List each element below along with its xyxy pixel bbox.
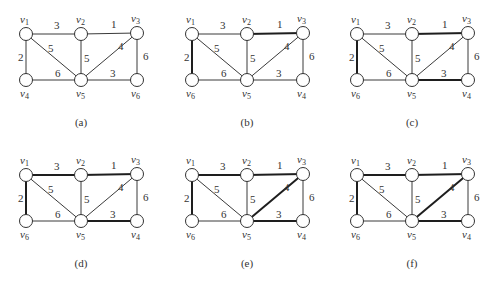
vertex-node-br <box>462 215 475 228</box>
edge-weight-label: 6 <box>143 50 149 62</box>
vertex-node-bl <box>186 74 199 87</box>
edge-weight-label: 3 <box>110 67 116 79</box>
edge-weight-label: 5 <box>84 52 90 64</box>
vertex-node-bm <box>241 74 254 87</box>
graph-svg: 312554663v1v2v3v4v5v6(a) <box>0 0 165 141</box>
vertex-label: v6 <box>186 87 195 101</box>
vertex-label: v6 <box>186 228 195 242</box>
edge-weight-label: 6 <box>221 67 227 79</box>
vertex-label: v2 <box>407 154 416 168</box>
vertex-node-tm <box>241 169 254 182</box>
vertex-label: v2 <box>242 154 251 168</box>
edge-weight-label: 3 <box>385 19 391 31</box>
vertex-label: v1 <box>20 13 29 27</box>
edge-weight-label: 5 <box>250 52 256 64</box>
edge-weight-label: 1 <box>277 159 283 171</box>
vertex-node-tr <box>297 168 310 181</box>
vertex-label: v6 <box>351 87 360 101</box>
edge-weight-label: 4 <box>118 40 124 52</box>
edge-weight-label: 5 <box>48 42 54 54</box>
vertex-label: v2 <box>242 13 251 27</box>
edge-weight-label: 2 <box>18 192 24 204</box>
vertex-node-tr <box>297 27 310 40</box>
graph-svg: 312554663v1v2v3v6v5v4(b) <box>166 0 331 141</box>
vertex-label: v1 <box>186 154 195 168</box>
vertex-label: v3 <box>131 153 140 167</box>
panel-caption: (e) <box>241 257 254 270</box>
edge-weight-label: 3 <box>110 208 116 220</box>
vertex-label: v3 <box>462 153 471 167</box>
panel-caption: (b) <box>241 116 254 129</box>
vertex-label: v1 <box>351 154 360 168</box>
graph-panel-b: 312554663v1v2v3v6v5v4(b) <box>166 0 331 141</box>
edge-weight-label: 5 <box>415 193 421 205</box>
graph-panel-a: 312554663v1v2v3v4v5v6(a) <box>0 0 165 141</box>
graph-svg: 312554663v1v2v3v6v5v4(f) <box>331 141 496 282</box>
edge-tl-bm <box>192 34 247 80</box>
edge-weight-label: 6 <box>143 191 149 203</box>
edge-tm-tr <box>81 33 137 34</box>
edge-tm-tr <box>81 174 137 175</box>
vertex-node-tl <box>20 169 33 182</box>
graph-svg: 312554663v1v2v3v6v5v4(c) <box>331 0 496 141</box>
vertex-node-br <box>131 74 144 87</box>
edge-weight-label: 4 <box>284 181 290 193</box>
vertex-node-tr <box>462 27 475 40</box>
vertex-node-tl <box>351 169 364 182</box>
edge-weight-label: 6 <box>55 208 61 220</box>
vertex-node-tm <box>75 28 88 41</box>
edge-weight-label: 3 <box>441 208 447 220</box>
edge-tl-bm <box>357 34 412 80</box>
edge-weight-label: 2 <box>349 51 355 63</box>
graph-svg: 312554663v1v2v3v6v5v4(d) <box>0 141 165 282</box>
edge-weight-label: 2 <box>18 51 24 63</box>
edge-weight-label: 1 <box>442 18 448 30</box>
edge-weight-label: 3 <box>276 208 282 220</box>
vertex-label: v3 <box>297 12 306 26</box>
edge-tl-bm <box>26 175 81 221</box>
edge-tl-bm <box>192 175 247 221</box>
vertex-node-bl <box>351 215 364 228</box>
edge-weight-label: 4 <box>118 181 124 193</box>
panel-caption: (f) <box>407 257 418 270</box>
edge-weight-label: 5 <box>214 42 220 54</box>
vertex-node-tm <box>406 169 419 182</box>
vertex-label: v4 <box>297 87 306 101</box>
vertex-label: v3 <box>462 12 471 26</box>
vertex-node-bm <box>75 215 88 228</box>
graph-panel-f: 312554663v1v2v3v6v5v4(f) <box>331 141 496 282</box>
edge-weight-label: 5 <box>48 183 54 195</box>
vertex-label: v6 <box>131 87 140 101</box>
edge-weight-label: 6 <box>474 50 480 62</box>
graph-svg: 312554663v1v2v3v6v5v4(e) <box>166 141 331 282</box>
edge-weight-label: 1 <box>442 159 448 171</box>
vertex-label: v3 <box>297 153 306 167</box>
vertex-node-br <box>297 215 310 228</box>
vertex-label: v4 <box>462 87 471 101</box>
edge-tl-bm <box>357 175 412 221</box>
vertex-node-tm <box>241 28 254 41</box>
edge-weight-label: 3 <box>220 160 226 172</box>
vertex-label: v4 <box>462 228 471 242</box>
edge-weight-label: 6 <box>221 208 227 220</box>
edge-weight-label: 3 <box>220 19 226 31</box>
vertex-label: v2 <box>407 13 416 27</box>
panel-caption: (a) <box>75 116 88 129</box>
vertex-node-bm <box>75 74 88 87</box>
edge-weight-label: 6 <box>309 191 315 203</box>
vertex-node-tr <box>462 168 475 181</box>
edge-weight-label: 5 <box>379 42 385 54</box>
panel-caption: (c) <box>406 116 419 129</box>
vertex-label: v2 <box>76 154 85 168</box>
edge-weight-label: 3 <box>54 19 60 31</box>
vertex-node-tm <box>406 28 419 41</box>
edge-weight-label: 6 <box>386 208 392 220</box>
vertex-node-tr <box>131 27 144 40</box>
vertex-node-tl <box>186 169 199 182</box>
vertex-label: v6 <box>351 228 360 242</box>
vertex-label: v5 <box>76 228 85 242</box>
vertex-label: v5 <box>242 87 251 101</box>
vertex-label: v5 <box>242 228 251 242</box>
edge-tm-tr <box>247 174 303 175</box>
edge-weight-label: 4 <box>284 40 290 52</box>
